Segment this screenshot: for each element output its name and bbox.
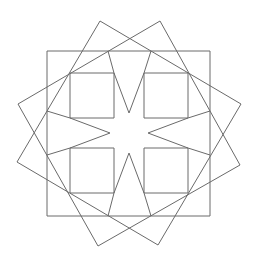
star-segment [144,51,151,73]
star-segment [108,51,114,73]
tilted-square-a [17,21,241,245]
star-pattern-figure [0,0,258,269]
outer-square [47,51,210,216]
star-segment [148,133,188,148]
star-segment [70,118,110,133]
inner-squares [70,73,188,193]
inner-square [144,73,188,118]
star-segment [47,148,70,155]
star-segment [108,193,114,216]
star-segment [47,111,70,118]
star-segment [70,133,110,148]
star-segment [148,118,188,133]
star-segment [114,153,129,193]
tilted-square-b [18,21,240,246]
star-segment [188,111,210,118]
star-segment [188,148,210,155]
star-segment [144,193,151,216]
star-segment [129,73,144,113]
inner-square [70,148,114,193]
star-segment [114,73,129,113]
star-segment [129,153,144,193]
star-segments [47,51,210,216]
inner-square [70,73,114,118]
diagram-canvas [0,0,258,269]
inner-square [144,148,188,193]
